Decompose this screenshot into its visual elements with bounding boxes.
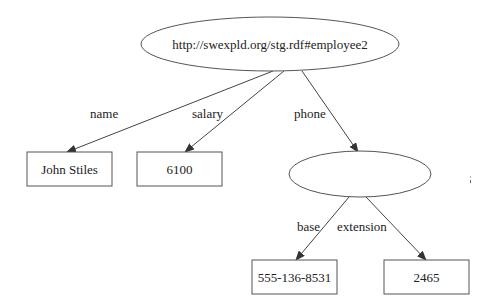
node-name-value: John Stiles — [27, 152, 112, 186]
edge-label-salary: salary — [192, 106, 224, 121]
node-extension-value-label: 2465 — [414, 270, 440, 285]
edge-label-name: name — [90, 106, 118, 121]
rdf-graph-diagram: name salary phone base extension http://… — [0, 0, 496, 308]
edge-label-phone: phone — [294, 106, 326, 121]
edge-name: name — [67, 71, 273, 152]
stray-mark — [470, 176, 471, 183]
edge-label-extension: extension — [337, 219, 387, 234]
diagram-canvas: name salary phone base extension http://… — [0, 0, 496, 308]
node-salary-value: 6100 — [137, 152, 222, 186]
edge-label-base: base — [297, 219, 320, 234]
node-phone-blank — [289, 151, 431, 197]
node-employee: http://swexpld.org/stg.rdf#employee2 — [141, 17, 399, 71]
edge-phone: phone — [294, 71, 358, 152]
node-salary-value-label: 6100 — [167, 162, 193, 177]
node-name-value-label: John Stiles — [41, 162, 98, 177]
edge-salary: salary — [185, 71, 284, 152]
edge-extension: extension — [337, 197, 426, 260]
node-extension-value: 2465 — [384, 260, 469, 294]
node-base-value-label: 555-136-8531 — [258, 270, 332, 285]
node-employee-label: http://swexpld.org/stg.rdf#employee2 — [172, 37, 367, 52]
node-base-value: 555-136-8531 — [252, 260, 337, 294]
